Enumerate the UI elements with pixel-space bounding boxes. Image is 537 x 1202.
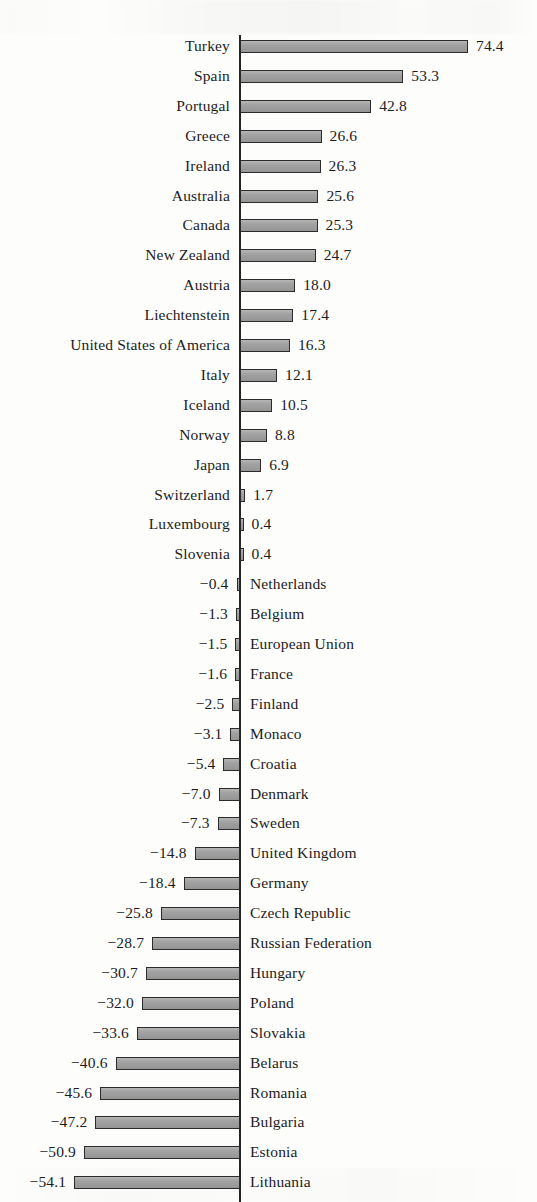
bar-row: Japan6.9 [0,451,537,481]
bar [195,847,240,860]
value-label: −47.2 [51,1111,88,1133]
bar [95,1116,240,1129]
value-label: 26.6 [330,125,358,147]
value-label: 17.4 [301,304,329,326]
category-label: Liechtenstein [145,304,230,326]
value-label: 6.9 [269,454,289,476]
bar-row: Czech Republic−25.8 [0,899,537,929]
value-label: −45.6 [56,1082,93,1104]
category-label: Slovenia [175,543,230,565]
category-label: Austria [183,274,230,296]
category-label: Spain [194,65,230,87]
category-label: Croatia [250,753,297,775]
category-label: Denmark [250,783,309,805]
category-label: Hungary [250,962,305,984]
bar-row: Estonia−50.9 [0,1138,537,1168]
bar-row: Russian Federation−28.7 [0,929,537,959]
category-label: European Union [250,633,354,655]
value-label: −40.6 [71,1052,108,1074]
bar-row: Lithuania−54.1 [0,1168,537,1198]
bar [240,339,290,352]
value-label: 0.4 [252,543,272,565]
bar-row: Portugal42.8 [0,92,537,122]
value-label: −1.5 [199,633,228,655]
category-label: Greece [185,125,230,147]
category-label: Estonia [250,1141,298,1163]
bar-row: Spain53.3 [0,62,537,92]
category-label: Ireland [185,155,230,177]
category-label: Belgium [250,603,304,625]
bar-row: Sweden−7.3 [0,809,537,839]
bar [240,548,244,561]
category-label: Lithuania [250,1171,311,1193]
bar [240,489,245,502]
value-label: −2.5 [196,693,225,715]
bar [240,130,322,143]
bar [232,698,240,711]
bar [240,190,318,203]
bar-row: Switzerland1.7 [0,481,537,511]
value-label: 24.7 [324,244,352,266]
category-label: Australia [172,185,230,207]
value-label: −5.4 [187,753,216,775]
bar-row: Canada25.3 [0,211,537,241]
bar [184,877,240,890]
category-label: Bulgaria [250,1111,305,1133]
diverging-bar-chart: Turkey74.4Spain53.3Portugal42.8Greece26.… [0,0,537,1202]
bar-row: New Zealand24.7 [0,241,537,271]
bar [84,1146,240,1159]
bar [116,1057,240,1070]
value-label: −50.9 [39,1141,76,1163]
bar-row: Austria18.0 [0,271,537,301]
bar-row: European Union−1.5 [0,630,537,660]
category-label: Turkey [185,35,230,57]
bar [219,788,240,801]
category-label: Sweden [250,812,300,834]
bar-row: Denmark−7.0 [0,780,537,810]
category-label: Netherlands [250,573,327,595]
value-label: −1.3 [199,603,228,625]
value-label: −1.6 [198,663,227,685]
value-label: 25.3 [326,214,354,236]
category-label: Slovakia [250,1022,305,1044]
bar [240,100,371,113]
bar-row: Italy12.1 [0,361,537,391]
bar-row: Romania−45.6 [0,1079,537,1109]
category-label: United Kingdom [250,842,357,864]
bar [240,429,267,442]
value-label: 42.8 [379,95,407,117]
value-label: 18.0 [303,274,331,296]
value-label: −33.6 [92,1022,129,1044]
category-label: Poland [250,992,294,1014]
category-label: Portugal [176,95,230,117]
bar [74,1176,240,1189]
bar [235,668,240,681]
bar-row: Monaco−3.1 [0,720,537,750]
value-label: −32.0 [97,992,134,1014]
bar [240,219,318,232]
category-label: Monaco [250,723,302,745]
bar-row: Bulgaria−47.2 [0,1108,537,1138]
category-label: Norway [179,424,230,446]
bar-row: United States of America16.3 [0,331,537,361]
value-label: −7.3 [181,812,210,834]
bar [240,309,293,322]
bar [100,1087,240,1100]
bar-row: Luxembourg0.4 [0,510,537,540]
category-label: Canada [183,214,230,236]
bar [240,459,261,472]
category-label: France [250,663,293,685]
value-label: −7.0 [182,783,211,805]
bar-row: Slovakia−33.6 [0,1019,537,1049]
bar [236,608,240,621]
bar [218,817,240,830]
bar [237,578,241,591]
value-label: 16.3 [298,334,326,356]
category-label: Japan [194,454,230,476]
bar [240,369,277,382]
figure-page: Turkey74.4Spain53.3Portugal42.8Greece26.… [0,0,537,1202]
value-label: 12.1 [285,364,313,386]
bar-row: Liechtenstein17.4 [0,301,537,331]
bar-row: Finland−2.5 [0,690,537,720]
bar [240,249,316,262]
